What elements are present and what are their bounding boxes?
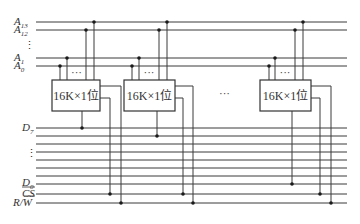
chip-1-label: 16K×1位	[53, 88, 98, 103]
chip-2-rw-junction	[191, 201, 195, 205]
wires	[36, 22, 347, 203]
chip-2-data-junction	[155, 134, 159, 138]
chip-3-a1-junction	[273, 56, 277, 60]
chip-1-data-junction	[80, 126, 84, 130]
chip-2-cs-pin	[175, 98, 183, 194]
chips: 16K×1位···16K×1位···16K×1位···	[52, 66, 311, 111]
chip-1-a0-junction	[58, 64, 62, 68]
chip-3-a13-junction	[301, 20, 305, 24]
chip-3-data-junction	[290, 182, 294, 186]
chip-1-a13-junction	[92, 20, 96, 24]
chip-2-a0-junction	[130, 64, 134, 68]
chip-3-rw-junction	[329, 201, 333, 205]
chip-3-label: 16K×1位	[263, 88, 308, 103]
chip-2-cs-junction	[181, 192, 185, 196]
chip-2-pin-ellipsis: ···	[144, 66, 155, 78]
chip-3-a12-junction	[293, 28, 297, 32]
label-d7: D7	[21, 121, 34, 136]
chip-1-pin-ellipsis: ···	[71, 66, 82, 78]
label-rw: R/W	[12, 196, 33, 208]
chip-1-a12-junction	[84, 28, 88, 32]
chip-3-cs-junction	[318, 192, 322, 196]
data-ellipsis: ⋮	[26, 147, 37, 159]
chip-1-cs-junction	[108, 192, 112, 196]
chip-2-a12-junction	[157, 28, 161, 32]
chip-3-cs-pin	[311, 98, 320, 194]
address-ellipsis: ⋮	[24, 39, 35, 51]
chip-3-pin-ellipsis: ···	[280, 66, 291, 78]
chip-2-a1-junction	[137, 56, 141, 60]
circuit-svg: 16K×1位···16K×1位···16K×1位··· A13 A12 ⋮ A1…	[0, 0, 360, 224]
chip-2-label: 16K×1位	[127, 88, 172, 103]
chip-1-rw-junction	[119, 201, 123, 205]
memory-bit-expansion-diagram: 16K×1位···16K×1位···16K×1位··· A13 A12 ⋮ A1…	[0, 0, 360, 224]
chip-3-a0-junction	[267, 64, 271, 68]
chip-ellipsis: ···	[219, 87, 230, 99]
chip-1-a1-junction	[65, 56, 69, 60]
chip-2-a13-junction	[165, 20, 169, 24]
chip-1-cs-pin	[100, 98, 110, 194]
